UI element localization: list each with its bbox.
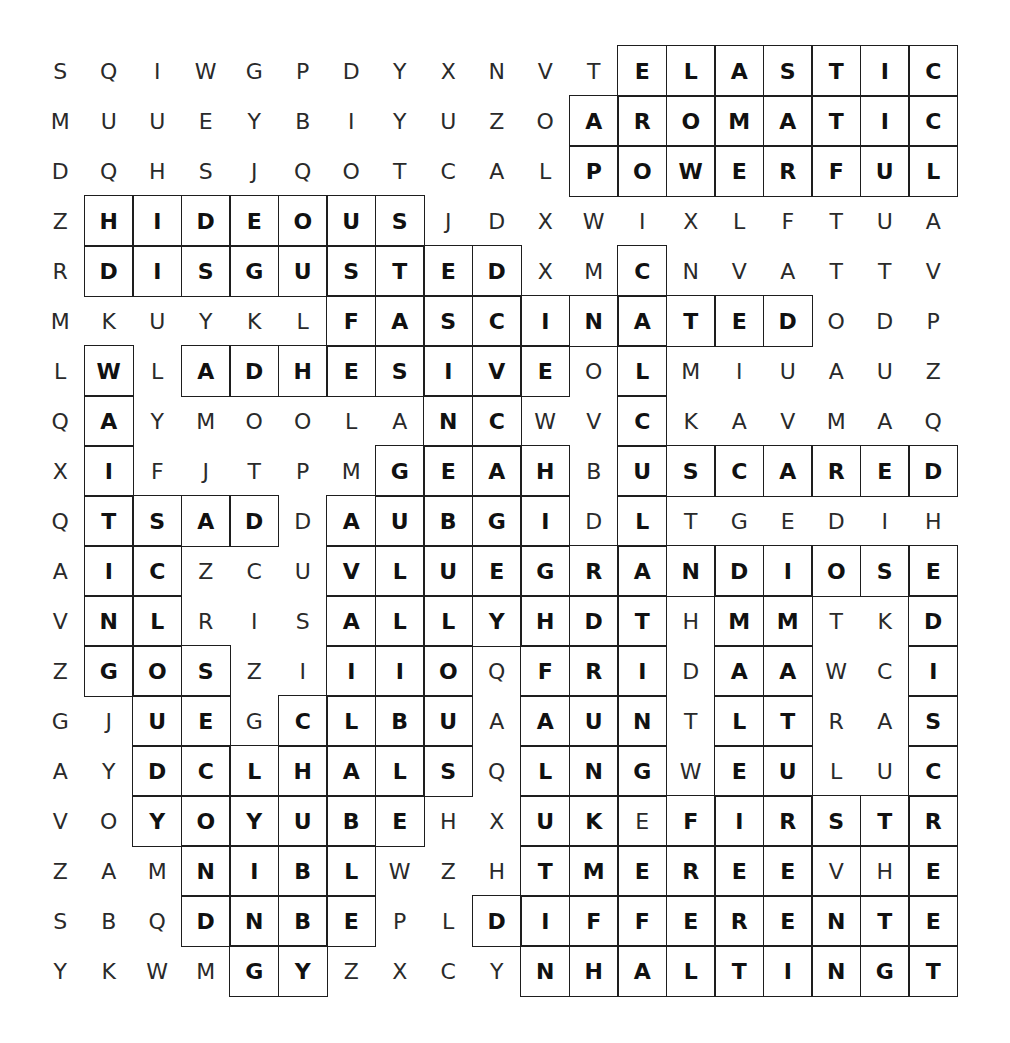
grid-cell[interactable]: L (666, 945, 716, 997)
grid-cell[interactable]: F (764, 196, 813, 246)
grid-cell[interactable]: X (521, 246, 570, 296)
grid-cell[interactable]: L (617, 495, 667, 547)
grid-cell[interactable]: U (569, 695, 619, 747)
grid-cell[interactable]: S (181, 645, 231, 697)
grid-cell[interactable]: U (763, 745, 813, 797)
grid-cell[interactable]: D (181, 895, 231, 947)
grid-cell[interactable]: G (230, 46, 279, 96)
grid-cell[interactable]: G (860, 945, 910, 997)
grid-cell[interactable]: U (617, 445, 667, 497)
grid-cell[interactable]: O (132, 645, 182, 697)
grid-cell[interactable]: U (326, 195, 376, 247)
grid-cell[interactable]: L (229, 745, 279, 797)
grid-cell[interactable]: E (763, 845, 813, 897)
grid-cell[interactable]: G (230, 696, 279, 746)
grid-cell[interactable]: X (424, 46, 473, 96)
grid-cell[interactable]: E (326, 345, 376, 397)
grid-cell[interactable]: I (84, 545, 134, 597)
grid-cell[interactable]: I (229, 845, 279, 897)
grid-cell[interactable]: L (617, 345, 667, 397)
grid-cell[interactable]: V (764, 396, 813, 446)
grid-cell[interactable]: D (570, 496, 619, 546)
grid-cell[interactable]: O (423, 645, 473, 697)
grid-cell[interactable]: T (812, 196, 861, 246)
grid-cell[interactable]: A (85, 846, 134, 896)
grid-cell[interactable]: L (666, 45, 716, 97)
grid-cell[interactable]: S (279, 596, 328, 646)
grid-cell[interactable]: Q (133, 896, 182, 946)
grid-cell[interactable]: A (617, 295, 667, 347)
grid-cell[interactable]: E (229, 195, 279, 247)
grid-cell[interactable]: O (327, 146, 376, 196)
grid-cell[interactable]: Y (229, 795, 279, 847)
grid-cell[interactable]: D (36, 146, 85, 196)
grid-cell[interactable]: G (472, 495, 522, 547)
grid-cell[interactable]: T (860, 895, 910, 947)
grid-cell[interactable]: D (473, 196, 522, 246)
grid-cell[interactable]: A (473, 146, 522, 196)
grid-cell[interactable]: Q (85, 46, 134, 96)
grid-cell[interactable]: D (861, 296, 910, 346)
grid-cell[interactable]: W (376, 846, 425, 896)
grid-cell[interactable]: E (666, 895, 716, 947)
grid-cell[interactable]: I (84, 445, 134, 497)
grid-cell[interactable]: L (326, 695, 376, 747)
grid-cell[interactable]: C (181, 745, 231, 797)
grid-cell[interactable]: A (569, 95, 619, 147)
grid-cell[interactable]: B (279, 96, 328, 146)
grid-cell[interactable]: Z (230, 646, 279, 696)
grid-cell[interactable]: F (811, 145, 861, 197)
grid-cell[interactable]: E (908, 845, 958, 897)
grid-cell[interactable]: T (230, 446, 279, 496)
grid-cell[interactable]: D (569, 595, 619, 647)
grid-cell[interactable]: O (230, 396, 279, 446)
grid-cell[interactable]: N (666, 545, 716, 597)
grid-cell[interactable]: U (424, 96, 473, 146)
grid-cell[interactable]: E (714, 845, 764, 897)
grid-cell[interactable]: Q (909, 396, 958, 446)
grid-cell[interactable]: I (520, 895, 570, 947)
grid-cell[interactable]: S (181, 245, 231, 297)
grid-cell[interactable]: B (278, 895, 328, 947)
grid-cell[interactable]: U (860, 145, 910, 197)
grid-cell[interactable]: L (36, 346, 85, 396)
grid-cell[interactable]: Z (909, 346, 958, 396)
grid-cell[interactable]: K (569, 795, 619, 847)
grid-cell[interactable]: D (908, 595, 958, 647)
grid-cell[interactable]: E (423, 245, 473, 297)
grid-cell[interactable]: I (132, 245, 182, 297)
grid-cell[interactable]: O (666, 95, 716, 147)
grid-cell[interactable]: M (763, 595, 813, 647)
grid-cell[interactable]: S (423, 295, 473, 347)
grid-cell[interactable]: D (181, 195, 231, 247)
grid-cell[interactable]: A (714, 45, 764, 97)
grid-cell[interactable]: T (763, 695, 813, 747)
grid-cell[interactable]: L (326, 845, 376, 897)
grid-cell[interactable]: U (861, 196, 910, 246)
grid-cell[interactable]: N (423, 395, 473, 447)
grid-cell[interactable]: V (521, 46, 570, 96)
grid-cell[interactable]: E (182, 96, 231, 146)
grid-cell[interactable]: W (570, 196, 619, 246)
grid-cell[interactable]: Y (472, 595, 522, 647)
grid-cell[interactable]: W (666, 145, 716, 197)
grid-cell[interactable]: R (811, 445, 861, 497)
grid-cell[interactable]: V (472, 345, 522, 397)
grid-cell[interactable]: I (860, 45, 910, 97)
grid-cell[interactable]: N (520, 945, 570, 997)
grid-cell[interactable]: S (375, 345, 425, 397)
grid-cell[interactable]: D (714, 545, 764, 597)
grid-cell[interactable]: J (424, 196, 473, 246)
grid-cell[interactable]: I (617, 645, 667, 697)
grid-cell[interactable]: G (617, 745, 667, 797)
grid-cell[interactable]: U (279, 546, 328, 596)
grid-cell[interactable]: D (279, 496, 328, 546)
grid-cell[interactable]: A (36, 746, 85, 796)
grid-cell[interactable]: Y (85, 746, 134, 796)
grid-cell[interactable]: S (860, 545, 910, 597)
grid-cell[interactable]: E (860, 445, 910, 497)
grid-cell[interactable]: G (375, 445, 425, 497)
grid-cell[interactable]: A (181, 495, 231, 547)
grid-cell[interactable]: F (326, 295, 376, 347)
grid-cell[interactable]: T (520, 845, 570, 897)
